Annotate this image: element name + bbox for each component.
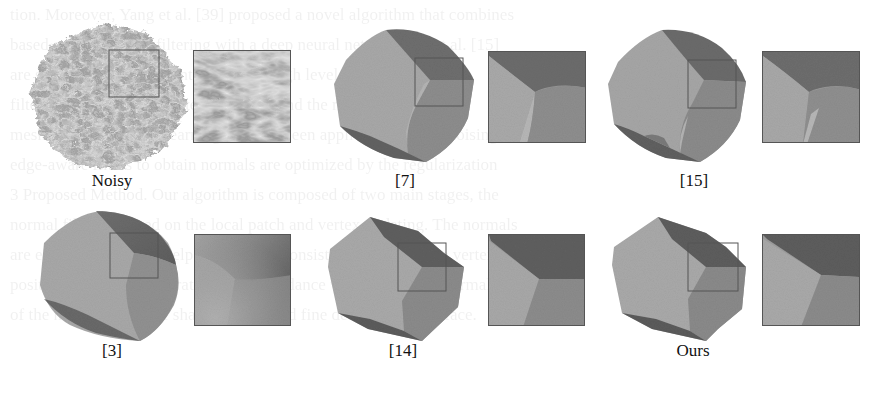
- panel-label: [3]: [52, 341, 172, 361]
- ref14-inset-zoom: [488, 234, 585, 326]
- panel-label: [14]: [343, 341, 463, 361]
- ref7-mesh-render: [328, 22, 484, 166]
- ref7-inset-zoom: [488, 51, 586, 143]
- noisy-inset-zoom: [193, 50, 291, 143]
- panel-label: Noisy: [52, 171, 172, 191]
- ref3-inset-zoom: [194, 234, 291, 326]
- ref15-mesh-render: [604, 24, 758, 166]
- panel-label: Ours: [633, 341, 753, 361]
- ours-mesh-render: [602, 205, 758, 347]
- ref14-mesh-render: [318, 205, 474, 347]
- panel-label: [15]: [634, 171, 754, 191]
- noisy-mesh-render: [24, 18, 190, 170]
- ours-inset-zoom: [762, 234, 860, 326]
- ref3-mesh-render: [36, 205, 186, 345]
- panel-label: [7]: [345, 171, 465, 191]
- ref15-inset-zoom: [762, 51, 860, 143]
